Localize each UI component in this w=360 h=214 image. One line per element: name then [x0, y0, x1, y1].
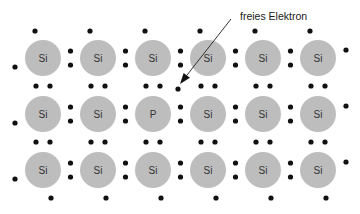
bond-electron: [88, 83, 93, 88]
bond-electron: [178, 118, 183, 123]
bond-electron: [143, 83, 148, 88]
atom-symbol: Si: [204, 53, 213, 64]
atom-si: Si: [135, 40, 171, 76]
atom-symbol: P: [150, 109, 157, 120]
bond-electron: [68, 160, 73, 165]
bond-electrons: [12, 28, 348, 200]
bond-electron: [123, 62, 128, 67]
bond-electron: [47, 139, 52, 144]
edge-electron: [12, 120, 17, 125]
bond-electron: [33, 139, 38, 144]
bond-electron: [288, 160, 293, 165]
bond-electron: [322, 139, 327, 144]
atom-symbol: Si: [259, 165, 268, 176]
atom-si: Si: [80, 152, 116, 188]
atom-si: Si: [80, 40, 116, 76]
edge-electron: [323, 195, 328, 200]
atom-p: P: [135, 96, 171, 132]
bond-electron: [68, 104, 73, 109]
bond-electron: [233, 160, 238, 165]
atom-si: Si: [245, 96, 281, 132]
atom-symbol: Si: [39, 53, 48, 64]
bond-electron: [198, 139, 203, 144]
atom-si: Si: [80, 96, 116, 132]
bond-electron: [68, 174, 73, 179]
edge-electron: [343, 159, 348, 164]
bond-electron: [288, 48, 293, 53]
atom-si: Si: [190, 96, 226, 132]
atom-symbol: Si: [259, 109, 268, 120]
bond-electron: [102, 139, 107, 144]
edge-electron: [197, 28, 202, 33]
atom-si: Si: [25, 40, 61, 76]
free-electron: [175, 86, 180, 91]
edge-electron: [103, 195, 108, 200]
edge-electron: [158, 195, 163, 200]
bond-electron: [178, 62, 183, 67]
edge-electron: [12, 64, 17, 69]
bond-electron: [88, 139, 93, 144]
bond-electron: [143, 139, 148, 144]
bond-electron: [68, 48, 73, 53]
bond-electron: [102, 83, 107, 88]
atom-symbol: Si: [94, 53, 103, 64]
bond-electron: [68, 62, 73, 67]
atom-si: Si: [300, 96, 336, 132]
atom-si: Si: [135, 152, 171, 188]
edge-electron: [142, 28, 147, 33]
bond-electron: [212, 139, 217, 144]
bond-electron: [233, 104, 238, 109]
edge-electron: [32, 28, 37, 33]
atom-symbol: Si: [204, 109, 213, 120]
edge-electron: [213, 195, 218, 200]
atom-si: Si: [190, 40, 226, 76]
bond-electron: [233, 48, 238, 53]
bond-electron: [47, 83, 52, 88]
atom-symbol: Si: [149, 53, 158, 64]
edge-electron: [87, 28, 92, 33]
atom-si: Si: [25, 152, 61, 188]
bond-electron: [157, 139, 162, 144]
atom-symbol: Si: [94, 165, 103, 176]
bond-electron: [123, 118, 128, 123]
bond-electron: [253, 139, 258, 144]
atom-symbol: Si: [39, 109, 48, 120]
atom-si: Si: [245, 152, 281, 188]
crystal-lattice-diagram: SiSiSiSiSiSiSiSiPSiSiSiSiSiSiSiSiSi frei…: [0, 0, 360, 214]
atom-symbol: Si: [314, 165, 323, 176]
atom-symbol: Si: [314, 109, 323, 120]
bond-electron: [123, 104, 128, 109]
edge-electron: [12, 176, 17, 181]
edge-electron: [307, 28, 312, 33]
bond-electron: [253, 83, 258, 88]
edge-electron: [343, 47, 348, 52]
edge-electron: [343, 103, 348, 108]
atom-symbol: Si: [259, 53, 268, 64]
free-electron-label: freies Elektron: [240, 10, 307, 22]
bond-electron: [267, 139, 272, 144]
bond-electron: [157, 83, 162, 88]
bond-electron: [123, 160, 128, 165]
bond-electron: [308, 139, 313, 144]
arrow-head-icon: [180, 73, 190, 84]
bond-electron: [178, 104, 183, 109]
bond-electron: [212, 83, 217, 88]
edge-electron: [268, 195, 273, 200]
bond-electron: [288, 118, 293, 123]
bond-electron: [267, 83, 272, 88]
bond-electron: [178, 160, 183, 165]
edge-electron: [252, 28, 257, 33]
bond-electron: [233, 118, 238, 123]
atom-si: Si: [300, 152, 336, 188]
bond-electron: [288, 104, 293, 109]
bond-electron: [123, 174, 128, 179]
bond-electron: [68, 118, 73, 123]
atom-symbol: Si: [204, 165, 213, 176]
atom-symbol: Si: [39, 165, 48, 176]
bond-electron: [123, 48, 128, 53]
bond-electron: [198, 83, 203, 88]
bond-electron: [178, 174, 183, 179]
bond-electron: [178, 48, 183, 53]
bond-electron: [33, 83, 38, 88]
atom-si: Si: [300, 40, 336, 76]
